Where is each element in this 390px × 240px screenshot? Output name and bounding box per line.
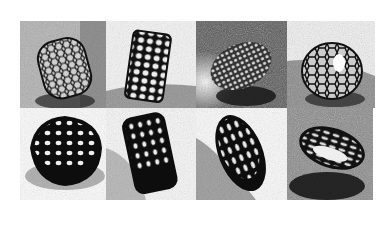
photo-panel-4 [287,21,375,108]
photo-panel-8 [287,108,373,200]
photo-panel-5 [20,108,106,200]
photo-panel-6 [106,108,196,200]
photo-panel-7 [196,108,287,200]
photo-panel-2 [106,21,196,108]
photo-panel-3 [196,21,287,108]
photo-panel-1 [20,21,106,108]
